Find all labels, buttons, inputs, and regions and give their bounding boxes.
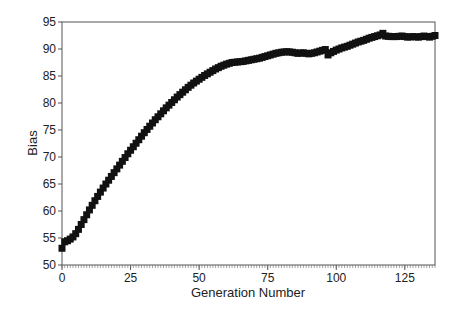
y-axis-title: Bias [25, 130, 40, 156]
y-tick-label: 65 [43, 177, 57, 191]
y-tick-label: 60 [43, 204, 57, 218]
x-tick-label: 75 [261, 271, 275, 285]
y-tick-label: 85 [43, 69, 57, 83]
y-tick-label: 70 [43, 150, 57, 164]
data-point-marker [59, 245, 66, 252]
y-tick-label: 50 [43, 258, 57, 272]
y-axis: 50556065707580859095 [43, 15, 62, 272]
bias-chart: 50556065707580859095 0255075100125 Bias … [0, 0, 459, 313]
x-axis-title: Generation Number [191, 285, 306, 300]
y-tick-label: 95 [43, 15, 57, 29]
x-tick-label: 0 [59, 271, 66, 285]
y-tick-label: 90 [43, 42, 57, 56]
y-tick-label: 80 [43, 96, 57, 110]
x-tick-label: 50 [192, 271, 206, 285]
data-series-markers [59, 30, 439, 252]
data-point-marker [432, 32, 439, 39]
x-tick-label: 25 [124, 271, 138, 285]
x-axis: 0255075100125 [59, 265, 416, 285]
y-tick-label: 75 [43, 123, 57, 137]
x-tick-label: 100 [326, 271, 346, 285]
y-tick-label: 55 [43, 231, 57, 245]
x-tick-label: 125 [395, 271, 415, 285]
